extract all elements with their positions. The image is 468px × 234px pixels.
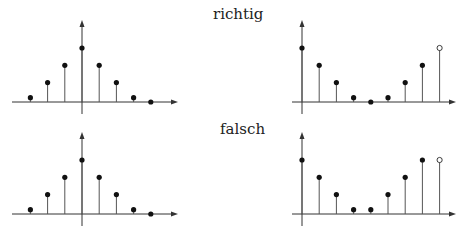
filled-marker (403, 175, 408, 180)
filled-marker (62, 175, 67, 180)
filled-marker (79, 157, 84, 162)
falsch-right-plot (292, 132, 456, 226)
y-axis-arrow-icon (300, 132, 305, 139)
filled-marker (131, 207, 136, 212)
filled-marker (28, 207, 33, 212)
filled-marker (385, 95, 390, 100)
filled-marker (62, 63, 67, 68)
filled-marker (334, 192, 339, 197)
filled-marker (368, 99, 373, 104)
filled-marker (368, 207, 373, 212)
x-axis-arrow-icon (449, 100, 456, 105)
x-axis-arrow-icon (171, 212, 178, 217)
filled-marker (131, 95, 136, 100)
filled-marker (351, 207, 356, 212)
filled-marker (148, 99, 153, 104)
y-axis-arrow-icon (300, 20, 305, 27)
filled-marker (299, 157, 304, 162)
richtig-left-plot (12, 20, 178, 114)
falsch-left-plot (12, 132, 178, 226)
filled-marker (403, 80, 408, 85)
filled-marker (299, 45, 304, 50)
filled-marker (97, 63, 102, 68)
filled-marker (79, 45, 84, 50)
filled-marker (45, 80, 50, 85)
filled-marker (45, 192, 50, 197)
filled-marker (317, 175, 322, 180)
open-marker (437, 157, 442, 162)
filled-marker (28, 95, 33, 100)
richtig-right-plot (292, 20, 456, 114)
filled-marker (148, 211, 153, 216)
filled-marker (114, 80, 119, 85)
filled-marker (114, 192, 119, 197)
filled-marker (317, 63, 322, 68)
y-axis-arrow-icon (80, 132, 85, 139)
filled-marker (351, 95, 356, 100)
filled-marker (385, 192, 390, 197)
x-axis-arrow-icon (449, 212, 456, 217)
filled-marker (420, 157, 425, 162)
filled-marker (334, 80, 339, 85)
stem-plots (0, 0, 468, 234)
y-axis-arrow-icon (80, 20, 85, 27)
x-axis-arrow-icon (171, 100, 178, 105)
open-marker (437, 45, 442, 50)
filled-marker (97, 175, 102, 180)
filled-marker (420, 63, 425, 68)
